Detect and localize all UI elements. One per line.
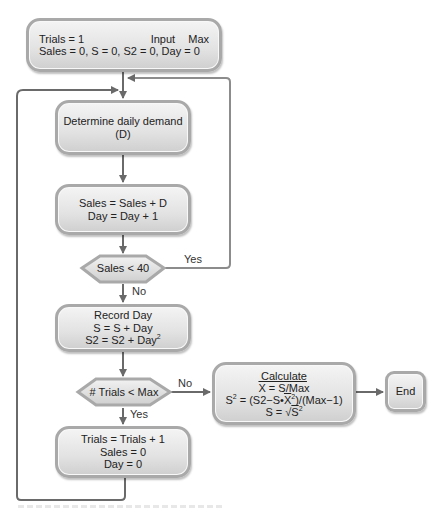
init-vars: Sales = 0, S = 0, S2 = 0, Day = 0 xyxy=(39,45,200,58)
reset-line3: Day = 0 xyxy=(104,458,142,471)
demand-line1: Determine daily demand xyxy=(63,115,182,128)
calculate-mean: X = S/Max xyxy=(258,382,309,394)
decision-trials-yes-label: Yes xyxy=(130,408,148,420)
update-line1: Sales = Sales + D xyxy=(79,197,167,210)
init-input: Input xyxy=(151,33,175,45)
init-max: Max xyxy=(188,33,209,45)
decision-trials-text: # Trials < Max xyxy=(86,386,162,398)
update-line2: Day = Day + 1 xyxy=(88,210,158,223)
record-line2: S = S + Day xyxy=(93,322,152,335)
decision-trials-no-label: No xyxy=(178,377,192,389)
end-text: End xyxy=(396,385,416,398)
record-node: Record Day S = S + Day S2 = S2 + Day2 xyxy=(55,304,191,352)
update-node: Sales = Sales + D Day = Day + 1 xyxy=(55,184,191,235)
init-node: Trials = 1 Input Max Sales = 0, S = 0, S… xyxy=(26,18,222,72)
decision-sales-text: Sales < 40 xyxy=(92,262,154,274)
init-trials: Trials = 1 xyxy=(39,33,84,46)
calculate-variance: S2 = (S2−S•X2)/(Max−1) xyxy=(225,394,342,406)
demand-node: Determine daily demand (D) xyxy=(55,100,191,155)
decision-sales-yes-label: Yes xyxy=(184,253,202,265)
reset-line1: Trials = Trials + 1 xyxy=(81,433,165,446)
demand-line2: (D) xyxy=(115,128,130,141)
record-line3: S2 = S2 + Day2 xyxy=(85,334,160,347)
end-node: End xyxy=(385,371,426,412)
decision-sales-no-label: No xyxy=(132,285,146,297)
calculate-node: Calculate X = S/Max S2 = (S2−S•X2)/(Max−… xyxy=(212,362,356,425)
calculate-stddev: S = √S2 xyxy=(265,406,302,418)
record-line1: Record Day xyxy=(94,309,152,322)
calculate-title: Calculate xyxy=(261,370,307,382)
cropped-caption xyxy=(18,505,223,508)
reset-node: Trials = Trials + 1 Sales = 0 Day = 0 xyxy=(55,426,191,478)
reset-line2: Sales = 0 xyxy=(100,446,146,459)
